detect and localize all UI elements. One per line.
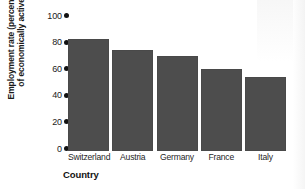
y-tick-label-80: 80 [28,37,62,48]
bar-chart: Employment rate (percentage of economica… [0,0,305,189]
x-axis-title: Country [63,169,99,180]
x-tick-label-austria: Austria [112,152,153,162]
bar-slot-italy [245,14,286,151]
bar-france [201,69,242,151]
x-axis-tick-labels: Switzerland Austria Germany France Italy [68,152,286,162]
bar-slot-austria [112,14,153,151]
scan-edge-artifact [293,0,305,189]
bar-slot-switzerland [68,14,109,151]
y-tick-label-0: 0 [28,143,62,154]
x-tick-label-germany: Germany [157,152,198,162]
x-tick-label-italy: Italy [245,152,286,162]
bar-austria [112,50,153,151]
bar-slot-germany [157,14,198,151]
y-tick-label-60: 60 [28,63,62,74]
y-tick-label-40: 40 [28,90,62,101]
plot-area [68,14,286,151]
x-tick-label-france: France [201,152,242,162]
bar-italy [245,77,286,151]
bar-switzerland [68,39,109,151]
bar-slot-france [201,14,242,151]
y-tick-label-100: 100 [28,10,62,21]
y-axis-title-line-2: of economically active) [16,0,27,87]
y-axis-title-line-1: Employment rate (percentage [6,0,17,99]
bar-germany [157,56,198,151]
y-tick-label-20: 20 [28,116,62,127]
x-tick-label-switzerland: Switzerland [68,152,109,162]
bar-series [68,14,286,151]
